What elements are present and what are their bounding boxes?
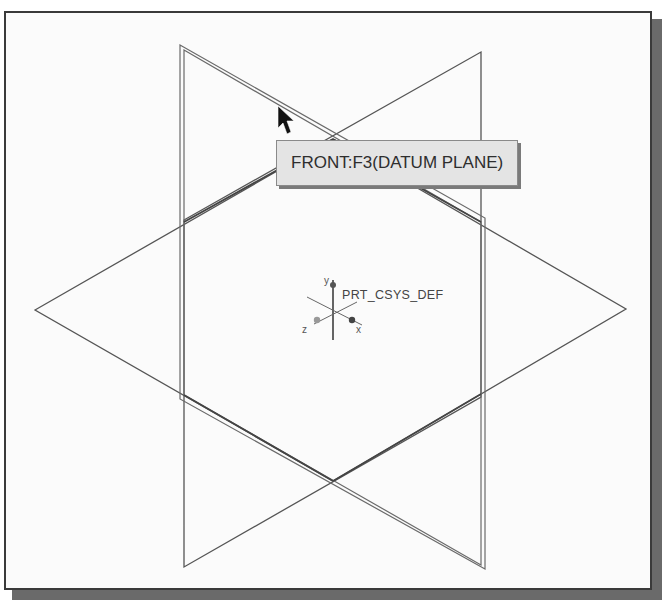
datum-plane-top[interactable]: [35, 139, 626, 481]
csys-label: PRT_CSYS_DEF: [342, 288, 443, 302]
axis-label-z: z: [302, 324, 307, 335]
model-canvas[interactable]: [6, 13, 652, 590]
axis-label-x: x: [356, 324, 361, 335]
graphics-viewport[interactable]: PRT_CSYS_DEF y z x FRONT:F3(DATUM PLANE): [4, 11, 652, 590]
axis-label-y: y: [324, 275, 329, 286]
mouse-cursor-icon: [278, 106, 294, 134]
datum-plane-tooltip: FRONT:F3(DATUM PLANE): [276, 140, 518, 186]
